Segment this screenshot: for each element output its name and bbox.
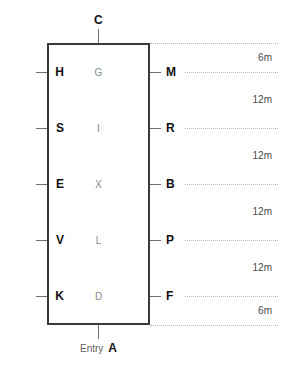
depth-rule-m [185,72,278,73]
node-label-c: C [94,14,103,26]
depth-label-5: 12m [253,263,272,273]
tick-left-e [36,184,47,185]
depth-label-2: 12m [253,95,272,105]
tick-left-s [36,128,47,129]
entry-caption-word: Entry [80,343,103,354]
depth-label-6: 6m [258,306,272,316]
node-label-p: P [166,234,174,246]
depth-label-4: 12m [253,207,272,217]
node-label-g: G [47,68,150,78]
node-label-r: R [166,122,175,134]
node-label-m: M [166,66,176,78]
depth-rule-b [185,184,278,185]
tick-left-v [36,240,47,241]
tick-right-p [150,240,161,241]
node-label-x: X [47,180,150,190]
depth-rule-f [185,296,278,297]
tick-left-h [36,72,47,73]
depth-rule-bottom [150,325,278,326]
depth-rule-p [185,240,278,241]
node-label-l: L [47,236,150,246]
tick-right-m [150,72,161,73]
node-label-i: I [47,124,150,134]
node-label-f: F [166,290,173,302]
tick-right-f [150,296,161,297]
depth-rule-r [185,128,278,129]
stem-top [98,29,99,43]
stem-bottom [98,325,99,339]
tick-right-b [150,184,161,185]
depth-label-1: 6m [258,53,272,63]
tick-right-r [150,128,161,129]
depth-rule-top [150,43,278,44]
depth-label-3: 12m [253,151,272,161]
node-label-a: A [108,341,117,355]
shaft-diagram: 6m 12m 12m 12m 12m 6m C H S E V K G I X … [0,0,285,372]
node-label-b: B [166,178,175,190]
tick-left-k [36,296,47,297]
node-label-d: D [47,292,150,302]
entry-caption: EntryA [47,339,150,355]
